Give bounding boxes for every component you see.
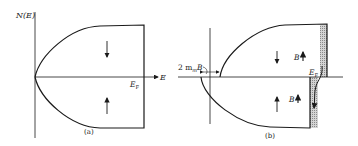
- splitting-label: 2 mmB: [178, 63, 203, 73]
- upper-shaded-region: [320, 25, 327, 77]
- density-of-states-figure: N(E) E EF (a) 2 mmB B B EF (b): [0, 0, 358, 146]
- field-label-lower: B: [288, 95, 295, 104]
- lower-dos-curve: [35, 77, 144, 128]
- caption-a: (a): [84, 128, 94, 136]
- field-label-upper: B: [293, 53, 300, 62]
- splitting-pointer: [203, 67, 207, 74]
- x-axis-label: E: [159, 73, 166, 82]
- panel-a: N(E) E EF (a): [15, 11, 166, 138]
- fermi-energy-label-b: EF: [308, 68, 318, 78]
- y-axis-label: N(E): [15, 11, 35, 20]
- fermi-energy-label: EF: [129, 80, 139, 90]
- caption-b: (b): [265, 132, 275, 140]
- upper-dos-curve: [35, 25, 144, 77]
- panel-b: 2 mmB B B EF (b): [178, 24, 343, 140]
